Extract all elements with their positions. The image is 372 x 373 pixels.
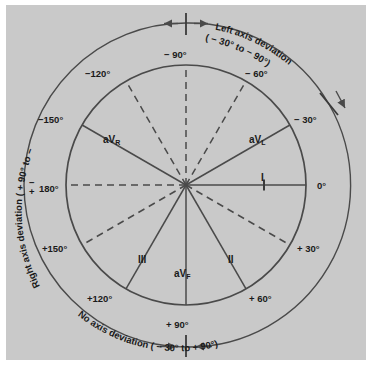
angle-label-p90: + 90° (166, 319, 189, 330)
right-boundary-arrow (336, 91, 345, 108)
rad-text: Right axis deviation (13, 199, 42, 291)
angle-label-0: 0° (317, 180, 326, 191)
right-boundary-tick (320, 93, 338, 115)
angle-label-180: 180° (39, 183, 59, 194)
lead-one-label: I (261, 172, 264, 183)
angle-label-180-group: − + 180° (29, 177, 59, 197)
angle-label-m90: − 90° (164, 49, 187, 60)
lead-avf-sub: F (186, 273, 191, 280)
angle-label-m120: −120° (85, 68, 110, 79)
angle-label-m150: −150° (38, 114, 63, 125)
spoke-p150 (82, 185, 186, 245)
spoke-p60 (186, 185, 246, 289)
nad-text: No axis deviation (76, 308, 150, 350)
axis-diagram: 0° + 30° + 60° + 90° +120° +150° − + 180… (6, 5, 366, 360)
angle-label-p30: + 30° (297, 243, 320, 254)
lead-avr-base: aV (103, 134, 116, 145)
rad-range: ( + 90° to − 90°) (6, 5, 36, 197)
plusminus-plus: + (29, 186, 35, 197)
lead-avf: aVF (174, 268, 191, 280)
nad-range: ( − 30° to + 90°) (150, 338, 219, 354)
svg-text:aVL: aVL (249, 134, 266, 146)
lead-avr-sub: R (115, 139, 120, 146)
spoke-m120 (126, 81, 186, 185)
svg-text:aVR: aVR (103, 134, 120, 146)
spoke-p30 (186, 185, 290, 245)
outer-arc-no-deviation (186, 104, 351, 347)
spoke-m60 (186, 81, 246, 185)
lead-avl-sub: L (261, 139, 266, 146)
lead-avf-base: aV (174, 268, 187, 279)
annotation-no-axis-deviation: No axis deviation ( − 30° to + 90°) (76, 308, 219, 353)
angle-label-m30: − 30° (294, 114, 317, 125)
angle-label-p150: +150° (42, 243, 67, 254)
angle-label-m60: − 60° (245, 68, 268, 79)
spoke-m30 (186, 125, 290, 185)
lead-avl: aVL (249, 134, 266, 146)
lead-avl-base: aV (249, 134, 262, 145)
angle-label-p60: + 60° (249, 293, 272, 304)
angle-label-p120: +120° (87, 293, 112, 304)
spoke-m150 (82, 125, 186, 185)
figure-panel: 0° + 30° + 60° + 90° +120° +150° − + 180… (6, 5, 366, 360)
lead-three-label: III (138, 254, 147, 265)
lead-two-label: II (228, 254, 234, 265)
svg-text:aVF: aVF (174, 268, 191, 280)
lead-avr: aVR (103, 134, 120, 146)
